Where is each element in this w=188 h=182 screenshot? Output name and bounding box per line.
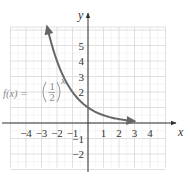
- function-label: f(x) = 1 2 x: [3, 75, 66, 103]
- y-axis-label: y: [77, 8, 84, 22]
- x-tick-label: 4: [147, 127, 153, 139]
- fraction-numerator: 1: [50, 81, 55, 92]
- function-label-prefix: f(x) =: [3, 88, 27, 100]
- y-tick-label: 2: [79, 86, 85, 98]
- x-tick-label: −2: [51, 127, 63, 139]
- x-tick-label: 3: [132, 127, 138, 139]
- x-axis-label: x: [177, 125, 184, 139]
- y-tick-label: −2: [72, 148, 84, 160]
- fraction-denominator: 2: [50, 92, 55, 103]
- svg-text:f(x) =: f(x) =: [3, 88, 27, 100]
- y-tick-label: −1: [72, 133, 84, 145]
- x-tick-label: −4: [20, 127, 32, 139]
- function-exponent: x: [60, 75, 66, 86]
- x-tick-labels: −4−3−2−11234: [20, 127, 153, 139]
- x-tick-label: −3: [36, 127, 48, 139]
- y-tick-label: 3: [79, 71, 85, 83]
- y-tick-label: 5: [79, 40, 85, 52]
- x-tick-label: 2: [116, 127, 122, 139]
- x-tick-label: 1: [101, 127, 107, 139]
- exponential-function-graph: x y −4−3−2−11234 5432−1−2 f(x) = 1 2 x: [0, 0, 188, 182]
- y-tick-label: 4: [79, 55, 85, 67]
